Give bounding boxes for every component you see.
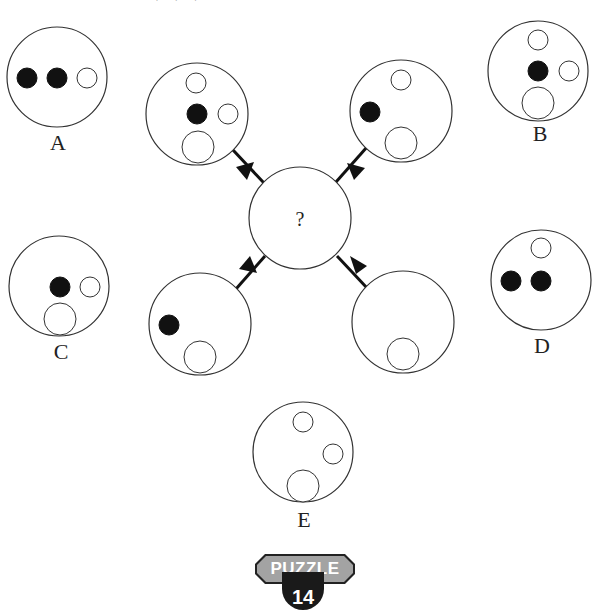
puzzle-diagram: .big { fill:#fff; stroke:#333; stroke-wi… <box>0 0 597 613</box>
white-dot <box>323 444 343 464</box>
option-c-label: C <box>54 339 69 364</box>
option-c[interactable]: C <box>9 236 109 364</box>
arrowhead-icon <box>239 256 257 273</box>
white-dot <box>391 70 411 90</box>
large-white-dot <box>522 87 554 119</box>
source-bottom-left <box>149 273 251 375</box>
option-b-label: B <box>533 121 548 146</box>
center-circle: ? <box>249 167 351 269</box>
large-white-dot <box>182 131 214 163</box>
white-dot <box>528 30 548 50</box>
source-bottom-right <box>352 271 454 373</box>
black-dot <box>50 277 70 297</box>
white-dot <box>559 61 579 81</box>
arrowhead-icon <box>347 163 365 180</box>
large-white-dot <box>387 338 419 370</box>
connector-bottom-right <box>337 256 368 289</box>
black-dot <box>47 68 67 88</box>
option-a[interactable]: A <box>7 27 107 155</box>
white-dot <box>218 104 238 124</box>
black-dot <box>528 61 548 81</box>
option-d[interactable]: D <box>491 230 591 358</box>
white-dot <box>80 277 100 297</box>
connector-top-right <box>336 147 367 182</box>
large-white-dot <box>184 341 216 373</box>
black-dot <box>187 104 207 124</box>
option-e[interactable]: E <box>253 402 353 532</box>
black-dot <box>159 315 179 335</box>
option-e-label: E <box>297 507 310 532</box>
option-d-label: D <box>534 333 550 358</box>
white-dot <box>186 73 206 93</box>
black-dot <box>501 271 521 291</box>
source-top-left <box>146 63 248 165</box>
connector-bottom-left <box>236 256 265 289</box>
puzzle-number: 14 <box>292 586 314 608</box>
black-dot <box>17 68 37 88</box>
black-dot <box>531 271 551 291</box>
option-a-label: A <box>50 130 66 155</box>
large-white-dot <box>287 470 319 502</box>
large-white-dot <box>44 303 76 335</box>
source-top-right <box>350 60 452 162</box>
option-b[interactable]: B <box>488 21 588 146</box>
large-white-dot <box>385 127 417 159</box>
black-dot <box>360 102 380 122</box>
white-dot <box>77 68 97 88</box>
connector-top-left <box>233 150 264 183</box>
white-dot <box>293 412 313 432</box>
white-dot <box>531 238 551 258</box>
question-mark: ? <box>296 208 305 230</box>
